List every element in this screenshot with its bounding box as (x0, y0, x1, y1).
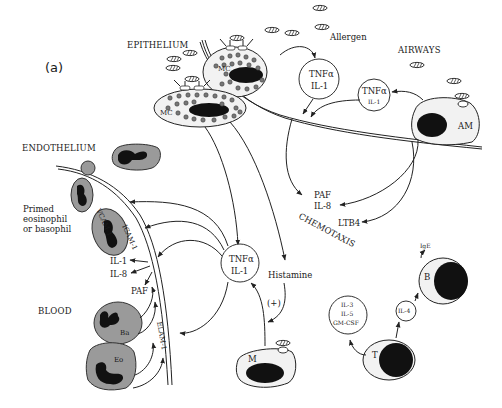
histamine-label: Histamine (268, 270, 312, 280)
tnf-label-top: TNFα (309, 69, 334, 79)
region-label-epithelium: EPITHELIUM (127, 40, 189, 50)
ltb4-label: LTB4 (338, 218, 360, 228)
paf-label-endo: PAF (131, 286, 148, 296)
grey-cell-top (112, 144, 160, 170)
gmcsf-label: GM-CSF (333, 319, 359, 326)
il3-label: IL-3 (341, 301, 353, 308)
basophil (94, 302, 142, 344)
mast-cell-lower-label: MC (160, 109, 173, 117)
primed-cell-upper (71, 161, 95, 212)
primed-label-3: or basophil (23, 224, 72, 234)
basophil-label: Ba (120, 329, 129, 337)
tnf-label-am: TNFα (362, 86, 387, 96)
tnf-il1-bubble-top (299, 59, 339, 99)
il1-label-am: IL-1 (368, 98, 380, 105)
eosinophil (86, 343, 136, 390)
t-cell-label: T (372, 350, 378, 360)
paf-label-airway: PAF (314, 190, 331, 200)
il1-label-center: IL-1 (231, 266, 248, 276)
il1-label-endo: IL-1 (110, 256, 127, 266)
primed-label-1: Primed (23, 204, 55, 214)
tnf-label-center: TNFα (229, 254, 254, 264)
elam-label: ELAM-1 (155, 321, 168, 351)
immune-response-diagram: (a) EPITHELIUM AIRWAYS ENDOTHELIUM BLOOD… (0, 0, 502, 408)
primed-label-2: eosinophil (23, 214, 67, 224)
region-label-airways: AIRWAYS (397, 45, 441, 55)
region-label-endothelium: ENDOTHELIUM (22, 143, 96, 153)
chemotaxis-label: CHEMOTAXIS (297, 211, 357, 249)
il1-label-top: IL-1 (311, 81, 328, 91)
panel-label: (a) (45, 60, 63, 75)
b-cell-label: B (424, 272, 430, 282)
alveolar-macrophage (412, 93, 480, 144)
mast-cell-upper-label: MC (218, 65, 231, 73)
ige-label: IgE (420, 242, 431, 250)
il8-label-airway: IL-8 (314, 201, 331, 211)
region-label-blood: BLOOD (38, 306, 72, 316)
macrophage-label: M (248, 354, 257, 364)
t-cell (363, 340, 415, 380)
am-label: AM (457, 121, 473, 131)
allergen-label: Allergen (329, 32, 367, 42)
macrophage (236, 340, 295, 387)
il8-label-endo: IL-8 (110, 269, 127, 279)
eosinophil-label: Eo (114, 356, 123, 364)
il5-label: IL-5 (341, 310, 353, 317)
mast-cell-upper (203, 35, 267, 97)
il4-label: IL-4 (398, 307, 410, 314)
plus-label: (+) (267, 298, 281, 308)
